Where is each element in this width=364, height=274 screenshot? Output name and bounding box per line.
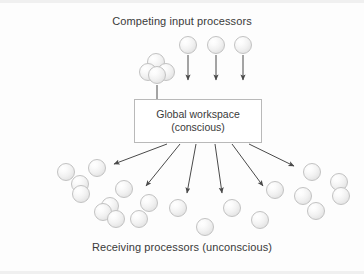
competing-input-processors-label: Competing input processors — [0, 15, 364, 27]
receiving-processor-sphere-14 — [266, 181, 284, 199]
input-processor-sphere-5 — [207, 36, 225, 54]
receiving-processor-sphere-18 — [332, 187, 350, 205]
receiving-processor-sphere-10 — [169, 199, 187, 217]
diagram-canvas: Competing input processors Global worksp… — [0, 0, 364, 274]
receiving-processor-sphere-15 — [294, 187, 312, 205]
input-processor-sphere-4 — [179, 36, 197, 54]
receiving-processor-sphere-13 — [251, 211, 269, 229]
receiving-processor-sphere-1 — [88, 159, 106, 177]
receiving-processor-sphere-12 — [223, 199, 241, 217]
output-arrow-5 — [249, 144, 294, 166]
receiving-processor-sphere-8 — [130, 210, 148, 228]
input-processor-sphere-6 — [234, 36, 252, 54]
receiving-processor-sphere-4 — [115, 180, 133, 198]
receiving-processor-sphere-7 — [107, 210, 125, 228]
input-processor-sphere-3 — [148, 66, 166, 84]
receiving-processors-label: Receiving processors (unconscious) — [0, 241, 364, 253]
global-workspace-box: Global workspace (conscious) — [134, 99, 262, 143]
receiving-processor-sphere-11 — [196, 218, 214, 236]
output-arrow-2 — [187, 144, 196, 193]
global-workspace-subtitle: (conscious) — [171, 121, 225, 134]
output-arrow-4 — [232, 144, 263, 186]
page-edge-top — [0, 0, 364, 3]
global-workspace-title: Global workspace — [156, 108, 239, 121]
receiving-processor-sphere-19 — [307, 202, 325, 220]
output-arrow-0 — [114, 144, 167, 164]
receiving-processor-sphere-9 — [140, 194, 158, 212]
output-arrow-3 — [215, 144, 222, 193]
receiving-processor-sphere-3 — [72, 185, 90, 203]
output-arrow-1 — [146, 144, 180, 186]
receiving-processor-sphere-16 — [303, 163, 321, 181]
